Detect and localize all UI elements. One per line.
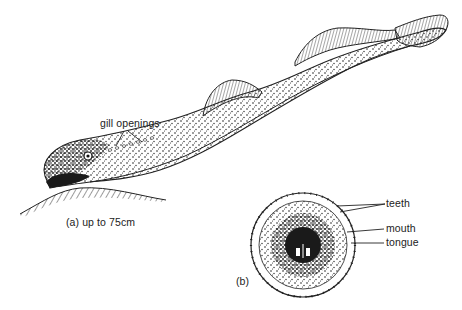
label-tongue: tongue (386, 236, 419, 248)
illustration-svg (0, 0, 462, 310)
label-teeth: teeth (386, 197, 410, 209)
figure-canvas: gill openings (a) up to 75cm (b) teeth m… (0, 0, 462, 310)
label-mouth: mouth (386, 222, 416, 234)
caption-panel-b: (b) (236, 275, 249, 287)
label-gill-openings: gill openings (100, 117, 160, 129)
caption-panel-a: (a) up to 75cm (66, 216, 135, 228)
lamprey-body (44, 28, 446, 188)
ground (20, 188, 166, 218)
oral-disc-diagram (251, 193, 355, 297)
